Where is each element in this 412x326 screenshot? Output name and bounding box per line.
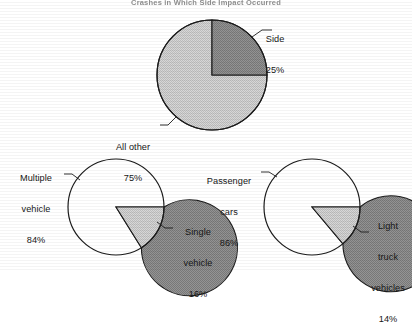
label-side: Side 25% bbox=[247, 13, 303, 96]
label-side-line1: Side bbox=[247, 34, 303, 44]
label-all-other: All other 75% bbox=[104, 121, 162, 204]
label-all-other-line1: All other bbox=[104, 142, 162, 152]
label-side-line2: 25% bbox=[247, 65, 303, 75]
label-light-truck-vehicles: Light truck vehicles 14% bbox=[364, 200, 412, 326]
label-multiple-vehicle: Multiple vehicle 84% bbox=[8, 152, 64, 266]
label-all-other-line2: 75% bbox=[104, 173, 162, 183]
label-light-truck-line1: Light bbox=[364, 221, 412, 231]
label-multiple-vehicle-line3: 84% bbox=[8, 235, 64, 245]
label-passenger-cars-line3: 86% bbox=[197, 238, 261, 248]
label-passenger-cars-line2: cars bbox=[197, 207, 261, 217]
label-light-truck-line3: vehicles bbox=[364, 283, 412, 293]
label-light-truck-line4: 14% bbox=[364, 314, 412, 324]
label-single-vehicle-line3: 16% bbox=[172, 289, 224, 299]
label-multiple-vehicle-line2: vehicle bbox=[8, 204, 64, 214]
label-light-truck-line2: truck bbox=[364, 252, 412, 262]
label-multiple-vehicle-line1: Multiple bbox=[8, 173, 64, 183]
leader-line-all-other bbox=[160, 117, 176, 125]
label-passenger-cars-line1: Passenger bbox=[197, 176, 261, 186]
label-passenger-cars: Passenger cars 86% bbox=[197, 155, 261, 269]
